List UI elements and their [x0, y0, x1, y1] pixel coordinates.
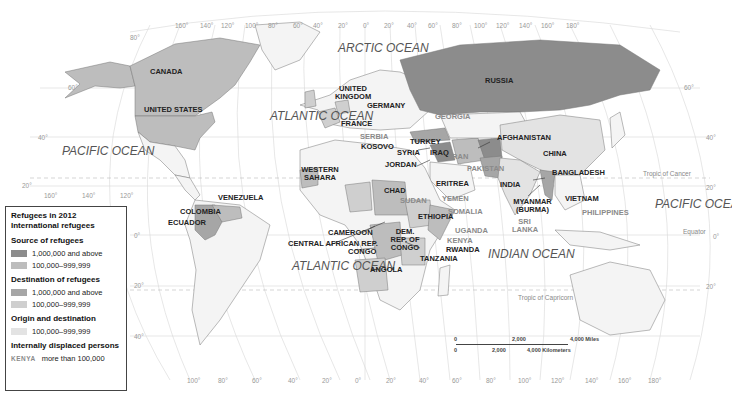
bottom-tick: 160° — [618, 377, 631, 384]
top-tick: 80° — [452, 22, 462, 29]
bottom-tick: 80° — [218, 377, 228, 384]
left-tick: 20° — [134, 282, 144, 289]
scale-line — [456, 344, 568, 345]
country-ecuador: ECUADOR — [168, 219, 206, 227]
bottom-tick: 100° — [187, 377, 200, 384]
country-rwanda: RWANDA — [446, 246, 480, 254]
country-yemen: YEMEN — [442, 195, 469, 203]
legend-subtitle: International refugees — [11, 221, 121, 231]
indian-ocean-label: INDIAN OCEAN — [488, 248, 543, 261]
legend-label: 100,000–999,999 — [32, 300, 90, 309]
equator-label: Equator — [683, 228, 706, 235]
country-bangladesh: BANGLADESH — [552, 169, 605, 177]
bottom-tick: 100° — [518, 377, 531, 384]
central-america — [175, 175, 200, 200]
right-tick: 20° — [706, 283, 716, 290]
country-iraq: IRAQ — [430, 149, 449, 157]
madagascar — [438, 265, 450, 296]
country-somalia: SOMALIA — [448, 208, 483, 216]
legend-dest-heading: Destination of refugees — [11, 275, 121, 285]
country-india: INDIA — [500, 181, 520, 189]
country-kosovo: KOSOVO — [361, 143, 394, 151]
right-tick: 40° — [706, 134, 716, 141]
country-serbia: SERBIA — [360, 133, 388, 141]
top-tick: 20° — [384, 22, 394, 29]
country-western-sahara: WESTERN SAHARA — [295, 166, 345, 182]
legend-row-source-high: 1,000,000 and above — [11, 249, 121, 258]
legend-row-idp: KENYA more than 100,000 — [11, 354, 121, 363]
top-tick: 80° — [268, 22, 278, 29]
country-sudan: SUDAN — [400, 197, 427, 205]
top-tick: 60° — [428, 22, 438, 29]
bottom-tick: 140° — [585, 377, 598, 384]
country-china: CHINA — [543, 150, 567, 158]
bottom-tick: 40° — [288, 377, 298, 384]
left-tick: 80° — [130, 34, 140, 41]
country-jordan: JORDAN — [385, 161, 417, 169]
legend-row-origin-dest: 100,000–999,999 — [11, 327, 121, 336]
australia — [570, 262, 665, 335]
greenland — [255, 22, 320, 70]
bottom-tick: 60° — [452, 377, 462, 384]
top-tick: 160° — [541, 22, 554, 29]
country-tanzania: TANZANIA — [420, 255, 458, 263]
top-tick: 120° — [221, 22, 234, 29]
right-tick: 60° — [684, 84, 694, 91]
country-united-states: UNITED STATES — [144, 106, 202, 114]
country-russia: RUSSIA — [485, 77, 513, 85]
legend-label: more than 100,000 — [42, 354, 105, 363]
bottom-tick: 80° — [486, 377, 496, 384]
country-afghanistan: AFGHANISTAN — [497, 134, 551, 142]
legend: Refugees in 2012 International refugees … — [5, 206, 127, 391]
legend-label: 1,000,000 and above — [32, 249, 102, 258]
left-tick: 140° — [82, 192, 95, 199]
top-tick: 180° — [566, 22, 579, 29]
swatch-dest-high — [11, 289, 27, 296]
scale-miles-0: 0 — [454, 336, 457, 342]
alaska — [65, 62, 135, 98]
japan — [610, 112, 625, 148]
country-congo: CONGO — [348, 248, 376, 256]
top-tick: 20° — [338, 22, 348, 29]
legend-title: Refugees in 2012 — [11, 211, 121, 221]
scale-km-0: 0 — [454, 347, 457, 353]
se-asia — [555, 175, 585, 210]
country-syria: SYRIA — [397, 149, 420, 157]
country-eritrea: ERITREA — [436, 180, 469, 188]
legend-idp-heading: Internally displaced persons — [11, 341, 121, 351]
legend-label: 100,000–999,999 — [32, 261, 90, 270]
left-tick: 40° — [38, 134, 48, 141]
bottom-tick: 40° — [419, 377, 429, 384]
country-kenya: KENYA — [447, 237, 473, 245]
pacific-ocean-east-label: PACIFIC OCEAN — [62, 145, 117, 158]
left-tick: 160° — [44, 192, 57, 199]
tropic-of-capricorn-label: Tropic of Capricorn — [518, 294, 573, 301]
top-tick: 140° — [200, 22, 213, 29]
swatch-dest-mid — [11, 301, 27, 308]
bottom-tick: 180° — [648, 377, 661, 384]
atlantic-ocean-south-label: ATLANTIC OCEAN — [292, 260, 362, 273]
scale-bar: 0 2,000 4,000 Miles 0 2,000 4,000 Kilome… — [452, 334, 592, 360]
swatch-origin-dest — [11, 328, 27, 335]
country-chad: CHAD — [384, 187, 406, 195]
country-canada: CANADA — [150, 68, 183, 76]
atlantic-ocean-north-label: ATLANTIC OCEAN — [270, 110, 340, 123]
country-pakistan: PAKISTAN — [467, 165, 504, 173]
right-tick: 0° — [713, 233, 719, 240]
legend-label: 1,000,000 and above — [32, 288, 102, 297]
bottom-tick: 120° — [551, 377, 564, 384]
country-dem-rep-congo: DEM. REP. OF CONGO — [390, 228, 420, 252]
country-sri-lanka: SRI LANKA — [512, 218, 537, 234]
bottom-tick: 0° — [355, 377, 361, 384]
left-tick: 60° — [68, 84, 78, 91]
country-uganda: UGANDA — [455, 227, 488, 235]
legend-label: 100,000–999,999 — [32, 327, 90, 336]
legend-row-dest-high: 1,000,000 and above — [11, 288, 121, 297]
country-turkey: TURKEY — [410, 138, 441, 146]
russia — [400, 40, 660, 115]
country-angola: ANGOLA — [370, 266, 403, 274]
country-germany: GERMANY — [367, 102, 405, 110]
tropic-of-cancer-label: Tropic of Cancer — [643, 170, 691, 177]
country-iran: IRAN — [450, 153, 468, 161]
top-tick: 40° — [407, 22, 417, 29]
